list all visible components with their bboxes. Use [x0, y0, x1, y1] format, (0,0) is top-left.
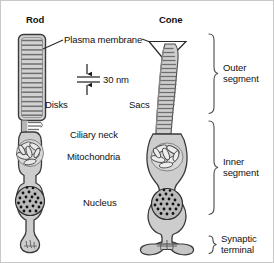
cone-outer-segment: [156, 44, 178, 134]
segment-braces: [209, 34, 218, 254]
inner-segment-label-line1: Inner: [223, 156, 244, 167]
cone-nucleus: [152, 189, 183, 220]
outer-segment-label-line1: Outer: [223, 62, 246, 73]
scale-bar-label: 30 nm: [103, 74, 129, 85]
rod-cell: [16, 35, 46, 253]
cone-cell: [140, 42, 193, 255]
outer-segment-brace: [209, 34, 218, 114]
cone-mitochondria: [150, 143, 183, 171]
outer-segment-label-line2: segment: [223, 73, 259, 84]
scale-indicator: [77, 64, 100, 95]
cone-synaptic-terminal: [140, 240, 193, 255]
disks-label: Disks: [45, 99, 68, 110]
photoreceptor-diagram: Rod Cone Plasma membrane 30 nm Disks Sac…: [0, 0, 274, 263]
nucleus-label: Nucleus: [83, 197, 117, 208]
rod-outer-segment: [19, 35, 46, 121]
synaptic-terminal-brace: [209, 236, 217, 254]
rod-title: Rod: [26, 14, 44, 25]
rod-mitochondria: [16, 140, 44, 167]
cone-title: Cone: [159, 14, 182, 25]
synaptic-terminal-label-line2: terminal: [221, 244, 254, 255]
synaptic-terminal-label-line1: Synaptic: [221, 233, 257, 244]
rod-nucleus: [16, 186, 45, 215]
mitochondria-label: Mitochondria: [67, 151, 120, 162]
inner-segment-label-line2: segment: [223, 167, 259, 178]
plasma-membrane-label: Plasma membrane: [64, 34, 142, 45]
inner-segment-brace: [209, 121, 218, 215]
ciliary-neck-label: Ciliary neck: [70, 129, 118, 140]
sacs-label: Sacs: [129, 99, 150, 110]
